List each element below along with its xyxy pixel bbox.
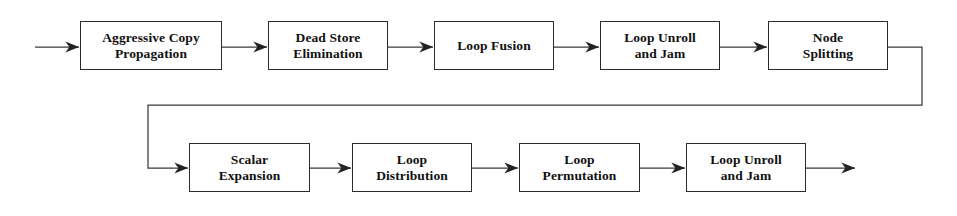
node-loop-unroll-and-jam-2: Loop Unroll and Jam bbox=[686, 143, 806, 192]
node-scalar-expansion: Scalar Expansion bbox=[189, 143, 310, 192]
node-label: Loop Distribution bbox=[373, 152, 451, 183]
node-loop-distribution: Loop Distribution bbox=[352, 143, 472, 192]
node-loop-fusion: Loop Fusion bbox=[434, 21, 554, 70]
node-dead-store-elimination: Dead Store Elimination bbox=[268, 21, 388, 70]
node-label: Aggressive Copy Propagation bbox=[99, 30, 203, 61]
node-label: Node Splitting bbox=[800, 30, 856, 61]
node-label: Loop Permutation bbox=[540, 152, 620, 183]
node-label: Loop Unroll and Jam bbox=[621, 30, 699, 61]
node-node-splitting: Node Splitting bbox=[768, 21, 888, 70]
node-label: Dead Store Elimination bbox=[290, 30, 365, 61]
node-label: Scalar Expansion bbox=[216, 152, 284, 183]
flowchart-diagram: Aggressive Copy Propagation Dead Store E… bbox=[0, 0, 957, 216]
node-label: Loop Unroll and Jam bbox=[707, 152, 785, 183]
node-label: Loop Fusion bbox=[454, 38, 534, 54]
node-aggressive-copy-propagation: Aggressive Copy Propagation bbox=[80, 21, 222, 70]
node-loop-unroll-and-jam-1: Loop Unroll and Jam bbox=[600, 21, 720, 70]
node-loop-permutation: Loop Permutation bbox=[519, 143, 640, 192]
